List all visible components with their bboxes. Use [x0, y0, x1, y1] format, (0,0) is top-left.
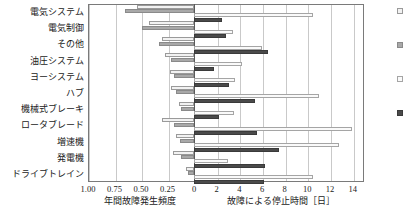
bar: [194, 18, 222, 22]
bar: [194, 115, 219, 119]
bar: [149, 21, 194, 25]
bar: [194, 34, 226, 38]
bar: [176, 90, 194, 94]
bar: [159, 42, 194, 46]
bar: [194, 83, 229, 87]
bar: [194, 111, 234, 115]
legend-entry: [396, 110, 414, 118]
bar: [194, 13, 313, 17]
legend-entry: [396, 76, 414, 84]
bar: [181, 155, 194, 159]
bar: [194, 50, 268, 54]
legend-swatch: [397, 42, 403, 48]
legend-entry: [396, 42, 414, 50]
bar: [174, 74, 194, 78]
left-axis-tick: 0.25: [154, 185, 182, 194]
bar: [125, 9, 194, 13]
bar: [173, 151, 194, 155]
bar: [194, 143, 339, 147]
bar: [194, 46, 262, 50]
legend-entry: [396, 8, 414, 16]
left-axis-tick: 1.00: [74, 185, 102, 194]
bar: [165, 53, 194, 57]
bar: [171, 58, 194, 62]
legend-swatch: [397, 110, 403, 116]
bar: [179, 102, 194, 106]
left-axis-tick: 0.50: [127, 185, 155, 194]
bar: [181, 107, 194, 111]
bar: [194, 175, 313, 179]
bar: [194, 164, 265, 168]
bar: [142, 26, 194, 30]
bar: [194, 148, 279, 152]
bar: [194, 30, 233, 34]
bar: [194, 180, 264, 184]
bar: [194, 67, 214, 71]
bar: [194, 127, 352, 131]
right-axis-title: 故障による停止時間［日］: [196, 196, 366, 206]
bar: [194, 78, 235, 82]
bars-layer: [0, 4, 414, 182]
bar: [170, 70, 194, 74]
bar: [194, 62, 242, 66]
legend-swatch: [397, 8, 403, 14]
bar: [194, 94, 319, 98]
bar: [176, 134, 194, 138]
bar: [174, 123, 194, 127]
bar: [194, 99, 255, 103]
right-axis-tick: 14: [339, 185, 367, 194]
bar: [186, 167, 194, 171]
bar: [194, 131, 257, 135]
bar: [171, 86, 194, 90]
bar: [162, 118, 194, 122]
chart-legend: [396, 8, 414, 128]
bar: [137, 5, 194, 9]
legend-swatch: [397, 76, 403, 82]
left-axis-title: 年間故障発生頻度: [80, 196, 200, 206]
bar: [162, 37, 194, 41]
reliability-tornado-chart: 電気システム電気制御その他油圧システムヨーシステムハブ機械式ブレーキロータブレー…: [0, 0, 414, 219]
bar: [194, 159, 228, 163]
bar: [180, 139, 194, 143]
left-axis-tick: 0.75: [101, 185, 129, 194]
